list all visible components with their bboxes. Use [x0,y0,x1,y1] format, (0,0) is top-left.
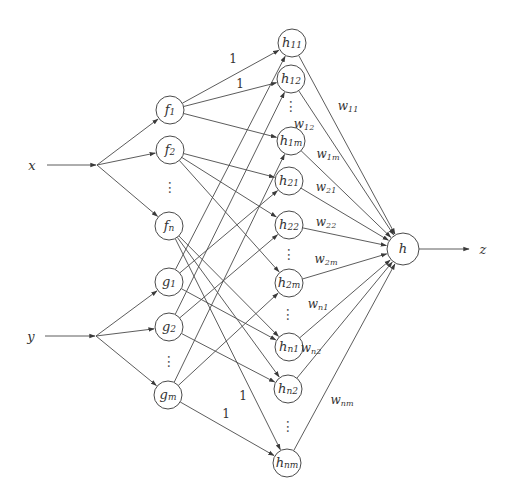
node-fn: fn [155,212,183,240]
weight-label-h12: w12 [294,117,314,132]
node-f2: f2 [156,136,184,164]
edge-g1-hn1 [181,289,276,340]
weight-label-h22: w22 [316,215,336,230]
node-label-h: h [399,241,407,256]
unit-weight-label-fn-hnm: 1 [239,389,247,403]
weight-label-h1m: w1m [317,147,340,162]
node-gm: gm [154,381,182,409]
edge-x-f1 [97,119,158,165]
unit-weight-label-f1-h11: 1 [229,52,237,66]
edge-h11-h [299,55,395,234]
ellipsis-hnm: ⋮ [281,418,295,434]
edge-g2-hn2 [181,333,274,382]
edge-gm-h1m [174,155,284,383]
input-label-x: x [28,158,36,173]
node-g2: g2 [155,313,183,341]
edge-h1m-h [301,151,391,237]
weight-label-hn1: wn1 [308,297,329,312]
node-h22: h22 [275,211,303,239]
node-hn2: hn2 [274,375,302,403]
unit-weight-label-f1-h12: 1 [236,77,244,91]
edge-h22-h [303,228,387,246]
node-hn1: hn1 [275,333,303,361]
node-h2m: h2m [275,269,303,297]
weight-label-h11: w11 [338,99,358,114]
edge-f2-h22 [182,157,276,217]
edge-x-fn [97,165,158,216]
edge-f1-h1m [184,113,277,137]
node-h11: h11 [278,29,306,57]
network-diagram: f1f2fng1g2gmh11h12h1mh21h22h2mhn1hn2hnmh… [0,0,507,504]
edge-hn2-h [297,262,392,378]
ellipsis-g: ⋮ [162,353,176,369]
node-h21: h21 [275,167,303,195]
edge-hnm-h [294,264,395,451]
node-f1: f1 [156,96,184,124]
node-h1m: h1m [277,127,305,155]
edge-f2-h2m [179,160,279,271]
ellipsis-hn: ⋮ [281,306,295,322]
input-label-y: y [26,329,35,344]
weight-label-hn2: wn2 [301,341,322,356]
ellipsis-f: ⋮ [163,179,177,195]
weight-label-h2m: w2m [315,252,338,267]
edge-g1-h11 [175,56,285,269]
weight-label-hnm: wnm [330,393,353,408]
node-g1: g1 [155,268,183,296]
node-h: h [387,233,419,265]
edge-h21-h [301,188,388,240]
edge-x-f2 [97,153,155,165]
output-label-z: z [479,242,487,257]
node-hnm: hnm [273,449,301,477]
ellipsis-h1: ⋮ [284,98,298,114]
unit-weight-label-gm-hnm: 1 [222,407,230,421]
edge-y-gm [96,336,156,385]
node-h12: h12 [277,65,305,93]
ellipsis-h2: ⋮ [282,246,296,262]
edge-fn-hn1 [179,236,279,336]
